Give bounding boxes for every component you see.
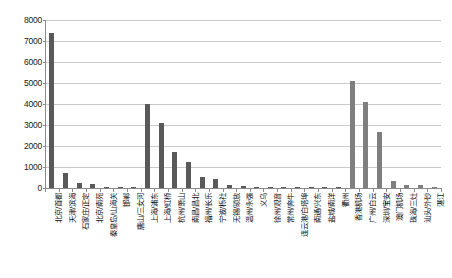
- x-axis-tick-mark: [168, 188, 169, 192]
- bar-chart: 010002000300040005000600070008000 北京/首都天…: [0, 0, 452, 278]
- bar: [145, 104, 150, 188]
- x-axis-tick-mark: [223, 188, 224, 192]
- x-axis-tick-label-text: 上海/虹桥: [164, 193, 172, 223]
- x-axis-tick-mark: [441, 188, 442, 192]
- x-axis-tick-label-text: 盐城/南洋: [328, 193, 336, 223]
- x-axis-tick-mark: [127, 188, 128, 192]
- x-axis-tick-mark: [59, 188, 60, 192]
- bar: [186, 162, 191, 188]
- bar: [49, 33, 54, 188]
- x-axis-tick-label: 温州/永强: [246, 193, 254, 223]
- bar: [213, 179, 218, 188]
- x-axis-tick-label-text: 天津/滨海: [69, 193, 77, 223]
- x-axis-tick-label-text: 义乌: [260, 193, 268, 207]
- x-axis-tick-label-text: 徐州/观音: [274, 193, 282, 223]
- plot-area: [45, 20, 441, 188]
- x-axis-tick-label-text: 连云港/白塔埠: [301, 193, 309, 237]
- x-axis-tick-label-text: 南通/兴东: [314, 193, 322, 223]
- x-axis-tick-mark: [100, 188, 101, 192]
- x-axis-tick-mark: [141, 188, 142, 192]
- x-axis-tick-label: 福州/长乐: [205, 193, 213, 223]
- x-axis-tick-mark: [386, 188, 387, 192]
- x-axis-tick-labels: 北京/首都天津/滨海石家庄/正定北京/南苑秦皇岛/山海关邯郸唐山/三女河上海/浦…: [45, 193, 441, 278]
- x-axis-tick-mark: [427, 188, 428, 192]
- y-axis-tick-label: 2000: [2, 142, 42, 150]
- y-axis-tick-labels: 010002000300040005000600070008000: [0, 0, 42, 278]
- x-axis-tick-mark: [236, 188, 237, 192]
- x-axis-tick-label: 盐城/南洋: [328, 193, 336, 223]
- x-axis-tick-mark: [154, 188, 155, 192]
- x-axis-tick-label: 上海/浦东: [151, 193, 159, 223]
- x-axis-tick-label-text: 汕头/外砂: [424, 193, 432, 223]
- x-axis-tick-label-text: 珠海/三灶: [410, 193, 418, 223]
- x-axis-tick-label: 杭州/萧山: [178, 193, 186, 223]
- x-axis-tick-label-text: 秦皇岛/山海关: [110, 193, 118, 237]
- x-axis-tick-mark: [318, 188, 319, 192]
- x-axis-tick-mark: [209, 188, 210, 192]
- x-axis-tick-label: 常州/奔牛: [287, 193, 295, 223]
- x-axis-tick-label: 唐山/三女河: [137, 193, 145, 230]
- x-axis-tick-label-text: 唐山/三女河: [137, 193, 145, 230]
- x-axis-tick-label-text: 常州/奔牛: [287, 193, 295, 223]
- x-axis-tick-label: 湛江: [437, 193, 445, 207]
- x-axis-tick-label: 秦皇岛/山海关: [110, 193, 118, 237]
- bar: [350, 81, 355, 188]
- x-axis-tick-mark: [195, 188, 196, 192]
- x-axis-tick-mark: [373, 188, 374, 192]
- bar: [377, 132, 382, 188]
- x-axis-tick-label: 义乌: [260, 193, 268, 207]
- x-axis-tick-label: 邯郸: [123, 193, 131, 207]
- x-axis-tick-label-text: 北京/南苑: [96, 193, 104, 223]
- y-axis-tick-label: 8000: [2, 16, 42, 24]
- x-axis-tick-label: 深圳/宝安: [383, 193, 391, 223]
- bar: [363, 102, 368, 188]
- x-axis-tick-label: 北京/首都: [55, 193, 63, 223]
- y-axis-tick-label: 6000: [2, 58, 42, 66]
- x-axis-tick-label: 广州/白云: [369, 193, 377, 223]
- x-axis-tick-label: 无锡/硕放: [233, 193, 241, 223]
- y-axis-tick-label: 0: [2, 184, 42, 192]
- x-axis-tick-label-text: 上海/浦东: [151, 193, 159, 223]
- y-axis-tick-label: 4000: [2, 100, 42, 108]
- x-axis-tick-label: 香港机场: [355, 193, 363, 221]
- x-axis-tick-mark: [359, 188, 360, 192]
- bar-series: [45, 20, 441, 188]
- x-axis-tick-label: 连云港/白塔埠: [301, 193, 309, 237]
- bar: [63, 173, 68, 188]
- x-axis-tick-mark: [291, 188, 292, 192]
- x-axis-tick-label-text: 石家庄/正定: [82, 193, 90, 230]
- bar: [172, 152, 177, 188]
- x-axis-tick-label-text: 南昌/昌北: [192, 193, 200, 223]
- x-axis-tick-mark: [250, 188, 251, 192]
- x-axis-tick-mark: [414, 188, 415, 192]
- x-axis-tick-mark: [263, 188, 264, 192]
- x-axis-tick-label-text: 湛江: [437, 193, 445, 207]
- x-axis-tick-label-text: 杭州/萧山: [178, 193, 186, 223]
- x-axis-tick-mark: [86, 188, 87, 192]
- x-axis-tick-label-text: 福州/长乐: [205, 193, 213, 223]
- x-axis-tick-label: 澳门机场: [396, 193, 404, 221]
- y-axis-tick-label: 5000: [2, 79, 42, 87]
- x-axis-tick-label: 汕头/外砂: [424, 193, 432, 223]
- x-axis-tick-label-text: 澳门机场: [396, 193, 404, 221]
- x-axis-tick-label: 南通/兴东: [314, 193, 322, 223]
- y-axis-tick-label: 1000: [2, 163, 42, 171]
- bar: [159, 123, 164, 188]
- x-axis-tick-label-text: 深圳/宝安: [383, 193, 391, 223]
- x-axis-tick-label-text: 广州/白云: [369, 193, 377, 223]
- x-axis-tick-label-text: 宁波/栎社: [219, 193, 227, 223]
- x-axis-tick-mark: [277, 188, 278, 192]
- x-axis-tick-label-text: 温州/永强: [246, 193, 254, 223]
- x-axis-tick-label-text: 邯郸: [123, 193, 131, 207]
- x-axis-tick-label: 石家庄/正定: [82, 193, 90, 230]
- x-axis-tick-label: 天津/滨海: [69, 193, 77, 223]
- x-axis-tick-mark: [332, 188, 333, 192]
- x-axis-tick-label: 衢州: [342, 193, 350, 207]
- x-axis-tick-label: 南昌/昌北: [192, 193, 200, 223]
- bar: [391, 181, 396, 188]
- x-axis-tick-mark: [72, 188, 73, 192]
- x-axis-tick-label: 珠海/三灶: [410, 193, 418, 223]
- y-axis-tick-label: 7000: [2, 37, 42, 45]
- x-axis-tick-label: 上海/虹桥: [164, 193, 172, 223]
- x-axis-tick-mark: [182, 188, 183, 192]
